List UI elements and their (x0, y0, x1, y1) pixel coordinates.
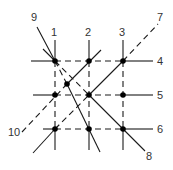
line-labels: 1 2 3 4 5 6 7 8 9 10 (8, 11, 163, 162)
node (120, 92, 126, 98)
node (120, 58, 126, 64)
label-8: 8 (146, 150, 152, 162)
node (86, 126, 92, 132)
diagonal-line-9 (37, 27, 100, 152)
node (86, 58, 92, 64)
node-extra (64, 81, 70, 87)
diagonal-line-7 (33, 24, 158, 153)
node (52, 126, 58, 132)
node (120, 126, 126, 132)
diagonal-line-8 (43, 49, 145, 151)
label-2: 2 (85, 26, 91, 38)
node (52, 58, 58, 64)
label-3: 3 (119, 26, 125, 38)
label-4: 4 (157, 55, 163, 67)
label-1: 1 (51, 26, 57, 38)
diagram-canvas: 1 2 3 4 5 6 7 8 9 10 (0, 0, 173, 170)
label-7: 7 (157, 11, 163, 23)
label-10: 10 (8, 126, 20, 138)
label-5: 5 (157, 89, 163, 101)
grid-diagram: 1 2 3 4 5 6 7 8 9 10 (0, 0, 173, 170)
node (86, 92, 92, 98)
label-6: 6 (157, 123, 163, 135)
node (52, 92, 58, 98)
label-9: 9 (31, 11, 37, 23)
